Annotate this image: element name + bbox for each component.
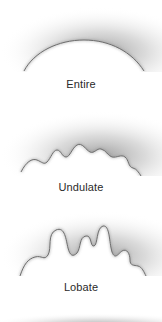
entire-margin-panel: Entire xyxy=(0,0,162,100)
lobate-label: Lobate xyxy=(0,281,162,293)
undulate-margin-panel: Undulate xyxy=(0,104,162,204)
entire-label: Entire xyxy=(0,78,162,90)
next-margin-halo xyxy=(0,304,162,322)
undulate-label: Undulate xyxy=(0,181,162,193)
next-margin-panel-partial xyxy=(0,304,162,322)
lobate-margin-panel: Lobate xyxy=(0,204,162,304)
